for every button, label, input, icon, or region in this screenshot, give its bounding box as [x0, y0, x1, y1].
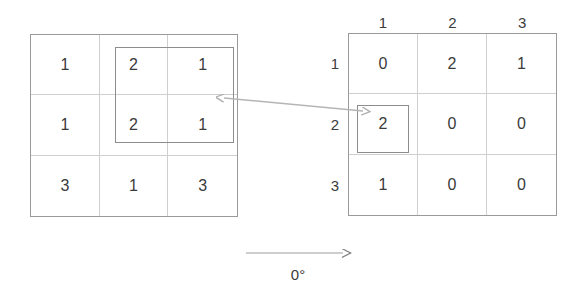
- glcm-cell-r1c3: 1: [487, 34, 556, 94]
- source-cell-r1c1: 1: [31, 35, 100, 95]
- source-cell-r3c2: 1: [100, 156, 169, 216]
- source-cell-r3c1: 3: [31, 156, 100, 216]
- diagram-canvas: 1 2 1 1 2 1 3 1 3 1 2 3 1 2 3 0 2 1 2 0 …: [0, 0, 579, 300]
- glcm-cell-r3c1: 1: [349, 155, 418, 215]
- glcm-col-header-1: 1: [348, 12, 418, 32]
- glcm-cell-r3c3: 0: [487, 155, 556, 215]
- source-matrix-grid: 1 2 1 1 2 1 3 1 3: [30, 34, 238, 217]
- glcm-matrix-grid: 0 2 1 2 0 0 1 0 0: [348, 33, 557, 216]
- glcm-col-header-2: 2: [418, 12, 488, 32]
- source-cell-r1c2: 2: [100, 35, 169, 95]
- glcm-cell-r1c1: 0: [349, 34, 418, 94]
- glcm-column-headers: 1 2 3: [348, 12, 557, 32]
- mapping-arrow-icon: [222, 92, 368, 122]
- source-cell-r3c3: 3: [168, 156, 237, 216]
- source-cell-r2c2: 2: [100, 95, 169, 155]
- glcm-row-header-3: 3: [326, 155, 344, 216]
- glcm-cell-r3c2: 0: [418, 155, 487, 215]
- orientation-arrow-icon: [245, 246, 351, 264]
- orientation-angle-label: 0°: [245, 266, 351, 283]
- glcm-row-headers: 1 2 3: [326, 33, 344, 216]
- glcm-cell-r2c3: 0: [487, 94, 556, 154]
- glcm-row-header-1: 1: [326, 33, 344, 94]
- source-cell-r1c3: 1: [168, 35, 237, 95]
- glcm-cell-r2c2: 0: [418, 94, 487, 154]
- glcm-cell-r1c2: 2: [418, 34, 487, 94]
- source-cell-r2c1: 1: [31, 95, 100, 155]
- glcm-col-header-3: 3: [487, 12, 557, 32]
